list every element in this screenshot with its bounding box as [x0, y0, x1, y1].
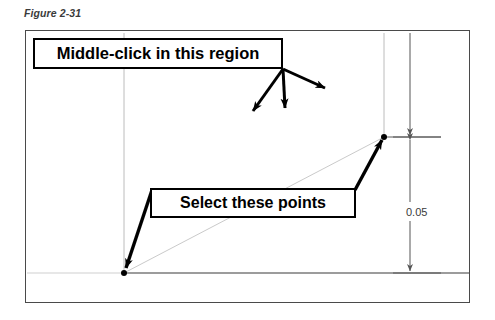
dimension-value-label: 0.05 [404, 206, 429, 218]
lower-left-point [121, 270, 127, 276]
middle-click-arrows [253, 69, 325, 111]
dimension-0-05 [393, 33, 441, 273]
callout-select-points: Select these points [150, 188, 356, 218]
construction-lines [27, 33, 384, 273]
callout-middle-click-label: Middle-click in this region [57, 44, 260, 63]
callout-middle-click: Middle-click in this region [33, 38, 283, 69]
upper-right-point [381, 134, 387, 140]
figure-page: Figure 2-31 [0, 0, 495, 320]
callout-select-points-label: Select these points [180, 194, 326, 212]
